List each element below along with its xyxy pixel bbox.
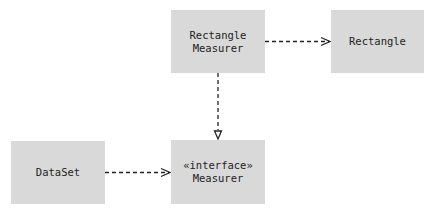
stereotype-label: «interface» xyxy=(183,159,253,172)
hollow-triangle-arrowhead-icon xyxy=(215,131,222,139)
node-dataset[interactable]: DataSet xyxy=(11,141,105,204)
node-label-line: Rectangle xyxy=(190,29,247,42)
uml-diagram: Rectangle Measurer Rectangle DataSet «in… xyxy=(0,0,435,211)
node-label-line: Measurer xyxy=(193,172,244,185)
node-label-line: DataSet xyxy=(36,166,80,179)
node-label-line: Measurer xyxy=(193,42,244,55)
node-rectangle[interactable]: Rectangle xyxy=(331,10,424,73)
node-label-line: Rectangle xyxy=(349,35,406,48)
node-measurer-interface[interactable]: «interface» Measurer xyxy=(171,140,265,204)
node-rectangle-measurer[interactable]: Rectangle Measurer xyxy=(171,10,265,73)
